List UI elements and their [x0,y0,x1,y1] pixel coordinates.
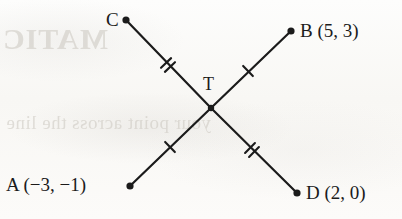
point-label-t: T [203,75,214,93]
segment-ct [126,20,211,108]
segment-tb [211,31,291,108]
point-label-c: C [106,10,119,29]
point-dot-d [293,189,300,196]
point-dot-t [208,105,214,111]
point-label-d: D (2, 0) [306,183,366,202]
figure-canvas: MATIC your point across the line [0,0,402,219]
point-dot-a [126,182,133,189]
point-label-b: B (5, 3) [300,21,359,40]
point-label-a: A (−3, −1) [6,175,86,194]
point-dot-c [122,16,129,23]
point-dot-b [287,27,294,34]
